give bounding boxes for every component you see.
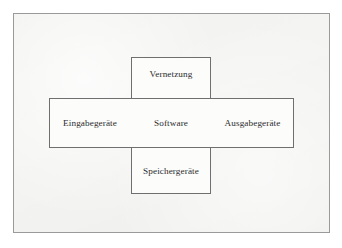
figure-root: Vernetzung Eingabegeräte Software Ausgab… xyxy=(0,0,342,248)
cell-label-eingabegeraete: Eingabegeräte xyxy=(49,119,131,128)
cell-label-ausgabegeraete: Ausgabegeräte xyxy=(211,119,294,128)
cell-label-speichergeraete: Speichergeräte xyxy=(131,167,211,176)
cell-label-vernetzung: Vernetzung xyxy=(131,70,211,79)
cross-diagram: Vernetzung Eingabegeräte Software Ausgab… xyxy=(0,0,342,248)
cell-label-software: Software xyxy=(131,119,211,128)
